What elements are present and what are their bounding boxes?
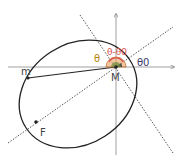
major-axis-dotted bbox=[8, 27, 173, 143]
label-theta-minus-theta0: θ-θ0 bbox=[107, 47, 127, 57]
label-theta: θ bbox=[94, 53, 100, 64]
label-m: m bbox=[21, 66, 31, 77]
point-M bbox=[114, 65, 118, 69]
label-M: M bbox=[111, 72, 120, 83]
label-theta0: θ0 bbox=[137, 57, 149, 68]
point-F bbox=[34, 120, 38, 124]
label-F: F bbox=[40, 127, 46, 138]
ellipse-diagram: θ θ-θ0 θ0 m M F bbox=[0, 0, 188, 166]
ellipse bbox=[0, 18, 157, 166]
perpendicular-dotted bbox=[80, 15, 173, 153]
segment-mM bbox=[28, 67, 116, 78]
